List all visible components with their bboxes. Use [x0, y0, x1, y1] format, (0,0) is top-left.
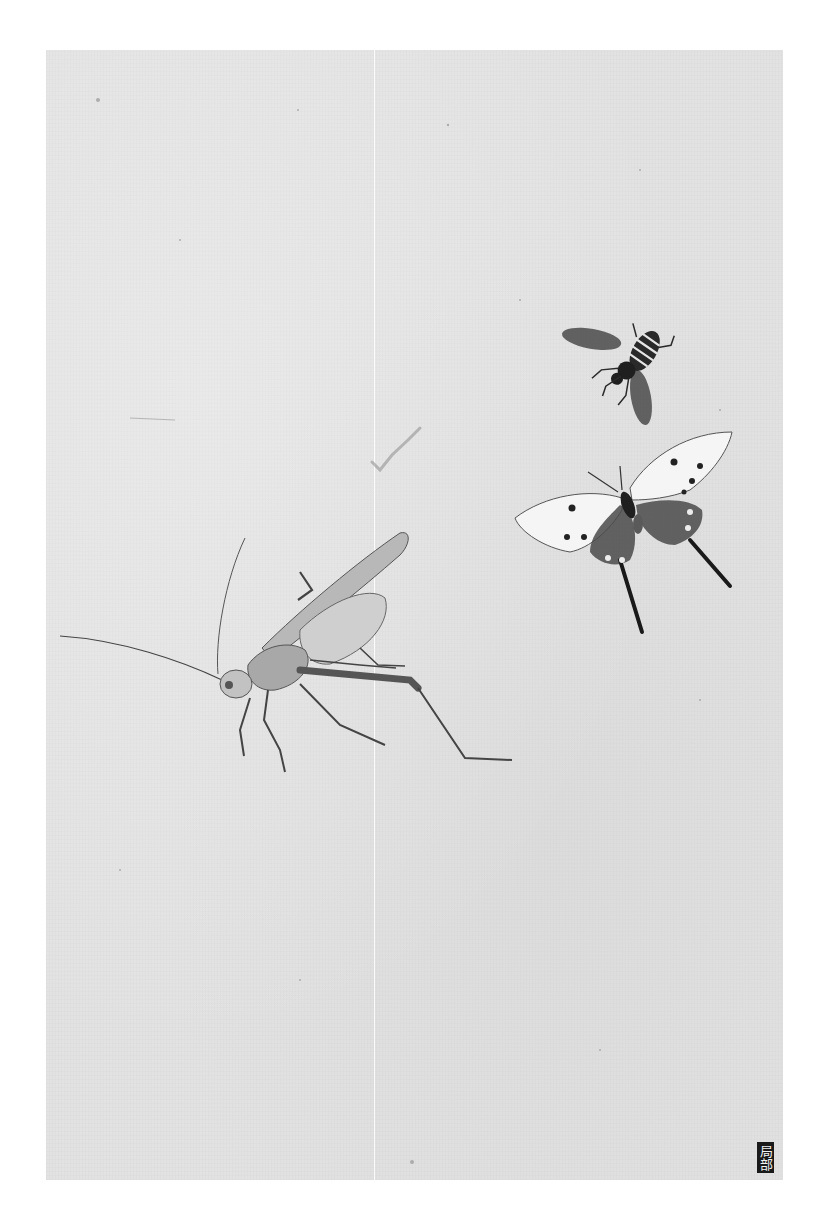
paper-specks: [96, 98, 721, 1164]
butterfly-illustration: [515, 432, 732, 632]
insect-illustrations: [46, 50, 783, 1180]
painting-paper: [46, 50, 783, 1180]
grasshopper-illustration: [60, 533, 512, 772]
detail-label: 局部: [757, 1142, 774, 1173]
bee-illustration: [537, 285, 698, 434]
